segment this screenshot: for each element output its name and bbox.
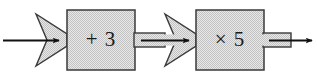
machine-box-multiply-label: × 5 [215,27,246,51]
function-machine-diagram: + 3 × 5 [0,0,317,80]
machine-box-add-label: + 3 [86,27,117,51]
machine-box-add: + 3 [67,10,135,70]
machine-box-multiply: × 5 [196,10,264,70]
connector-output-seam [262,34,266,45]
diagram-canvas: + 3 × 5 [0,0,317,80]
